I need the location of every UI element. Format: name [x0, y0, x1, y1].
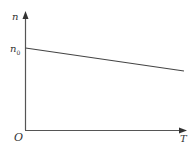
y-tick-label-n0: n0	[10, 43, 20, 56]
chart: n n0 O T	[0, 0, 196, 150]
y-axis-arrow-icon	[23, 11, 29, 19]
y-tick-subscript: 0	[16, 49, 20, 56]
origin-label: O	[14, 131, 23, 144]
x-axis-label: T	[180, 133, 188, 144]
y-axis-label: n	[12, 11, 18, 22]
data-line	[26, 48, 185, 71]
